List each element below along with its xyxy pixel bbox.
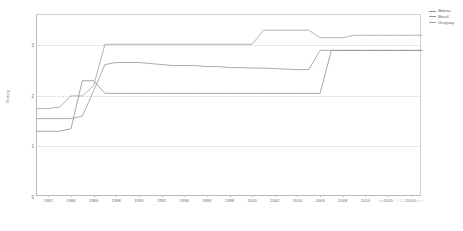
y-tick-3: 3 [31,43,34,48]
x-tick-2008: 2008 [338,198,347,203]
series-line-brasil [37,50,422,118]
x-tick-mark-2000 [252,195,253,197]
x-tick-mark-2002 [275,195,276,197]
series-line-uruguay [37,30,422,108]
x-tick-mark-1994 [184,195,185,197]
credit-text: ngraph.com - © 2014 data source [378,199,423,203]
x-tick-mark-2004 [297,195,298,197]
x-tick-1988: 1988 [112,198,121,203]
y-axis-label: Rating [5,89,10,102]
x-tick-mark-2010 [365,195,366,197]
x-tick-mark-1988 [116,195,117,197]
y-tick-1: 1 [31,144,34,149]
x-tick-2000: 2000 [247,198,256,203]
x-tick-1996: 1996 [202,198,211,203]
x-tick-mark-1998 [230,195,231,197]
x-tick-mark-1990 [139,195,140,197]
x-tick-2010: 2010 [361,198,370,203]
x-tick-1984: 1984 [66,198,75,203]
x-tick-mark-1984 [71,195,72,197]
y-tick-0: 0 [31,195,34,200]
legend-label-brasil: Brasil [438,15,448,19]
x-tick-mark-1986 [94,195,95,197]
x-tick-1986: 1986 [89,198,98,203]
x-tick-1998: 1998 [225,198,234,203]
x-tick-2006: 2006 [315,198,324,203]
legend-swatch-uruguay [429,22,436,23]
legend: Bolivia Brasil Uruguay [427,8,456,26]
legend-item-uruguay[interactable]: Uruguay [429,21,454,25]
legend-swatch-bolivia [429,11,436,12]
x-tick-1992: 1992 [157,198,166,203]
chart-canvas: 3 2 1 0 19821984198619881990199219941996… [0,0,463,231]
y-tick-2: 2 [31,93,34,98]
x-tick-1994: 1994 [180,198,189,203]
x-tick-1982: 1982 [44,198,53,203]
x-tick-mark-2006 [320,195,321,197]
series-lines [37,15,422,197]
legend-item-brasil[interactable]: Brasil [429,15,454,19]
x-tick-mark-1996 [207,195,208,197]
x-tick-mark-1992 [162,195,163,197]
x-tick-mark-2014 [411,195,412,197]
legend-label-bolivia: Bolivia [438,9,450,13]
legend-swatch-brasil [429,16,436,17]
x-tick-2002: 2002 [270,198,279,203]
x-tick-mark-1982 [48,195,49,197]
x-tick-1990: 1990 [134,198,143,203]
legend-label-uruguay: Uruguay [438,21,454,25]
x-tick-2004: 2004 [293,198,302,203]
plot-area: 3 2 1 0 19821984198619881990199219941996… [36,14,421,196]
legend-item-bolivia[interactable]: Bolivia [429,9,454,13]
x-tick-mark-2012 [388,195,389,197]
x-tick-mark-2008 [343,195,344,197]
series-line-bolivia [37,50,422,131]
